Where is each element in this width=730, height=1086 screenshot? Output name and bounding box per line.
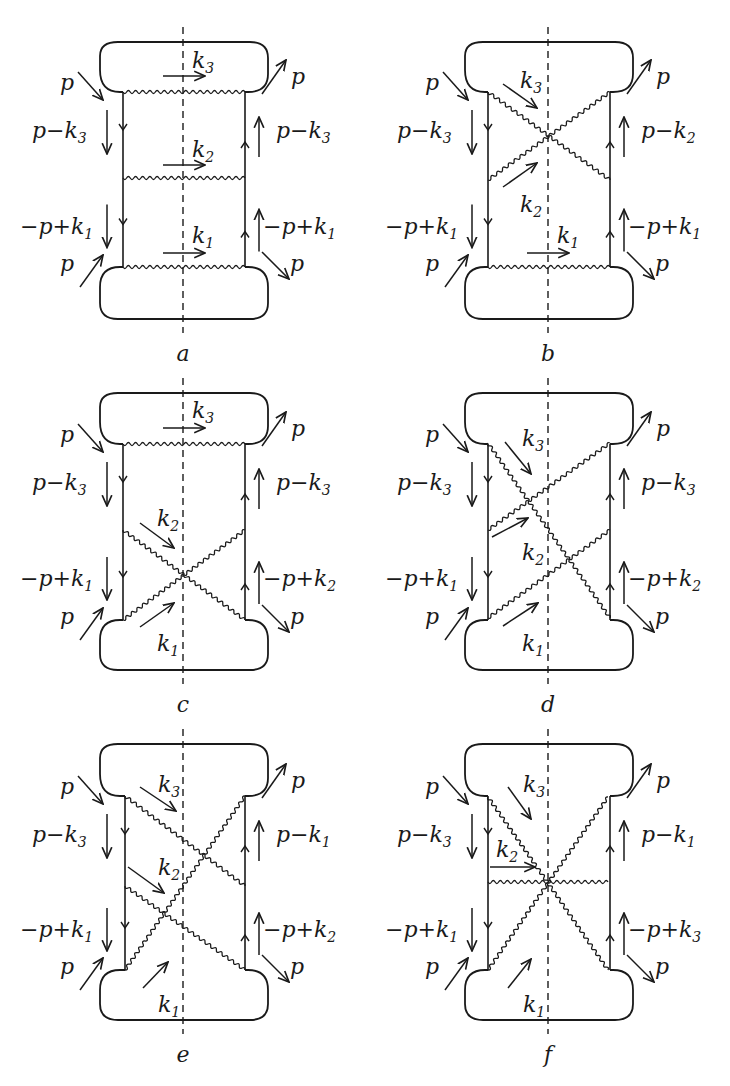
label-p-out-top: p xyxy=(291,64,305,89)
outgoing-p-arrow-icon xyxy=(627,60,651,94)
lower-blob xyxy=(465,970,633,1020)
momentum-label-k1: k1 xyxy=(523,992,545,1020)
label-right-lower-momentum: −p+k2 xyxy=(628,566,701,594)
label-p-in-bottom: p xyxy=(60,604,74,629)
outgoing-p-arrow-icon xyxy=(627,412,651,446)
label-p-in-bottom: p xyxy=(425,954,439,979)
diagram-e: k3k2k1pp−k3−p+k1ppp−k1−p+k2pe xyxy=(20,729,336,1067)
label-p-out-bottom: p xyxy=(290,604,304,629)
diagram-caption: e xyxy=(176,1042,189,1067)
momentum-label-k3: k3 xyxy=(192,398,214,426)
photon-line xyxy=(488,883,548,970)
momentum-label-k3: k3 xyxy=(522,426,544,454)
label-right-upper-momentum: p−k1 xyxy=(641,822,696,850)
label-p-in-bottom: p xyxy=(60,954,74,979)
momentum-arrow-icon xyxy=(503,603,538,626)
label-p-out-top: p xyxy=(291,416,305,441)
label-right-lower-momentum: −p+k3 xyxy=(628,917,701,945)
label-left-upper-momentum: p−k3 xyxy=(32,470,87,498)
label-right-upper-momentum: p−k3 xyxy=(276,118,331,146)
momentum-label-k1: k1 xyxy=(157,631,179,659)
outgoing-p-arrow-icon xyxy=(262,764,286,798)
momentum-label-k2: k2 xyxy=(157,506,179,534)
momentum-label-k1: k1 xyxy=(557,223,579,251)
lower-blob xyxy=(465,620,633,670)
lower-blob xyxy=(465,267,633,319)
label-left-upper-momentum: p−k3 xyxy=(32,118,87,146)
momentum-label-k2: k2 xyxy=(192,137,214,165)
label-left-lower-momentum: −p+k1 xyxy=(20,566,93,594)
photon-line xyxy=(488,443,611,618)
label-p-in-bottom: p xyxy=(425,604,439,629)
label-left-lower-momentum: −p+k1 xyxy=(385,214,458,242)
label-left-lower-momentum: −p+k1 xyxy=(385,917,458,945)
label-p-in-bottom: p xyxy=(60,251,74,276)
label-p-out-bottom: p xyxy=(290,251,304,276)
momentum-arrow-icon xyxy=(508,959,531,988)
photon-line xyxy=(125,886,245,970)
label-p-out-bottom: p xyxy=(655,251,669,276)
upper-blob xyxy=(100,42,268,92)
incoming-p-arrow-icon xyxy=(443,424,468,452)
momentum-label-k3: k3 xyxy=(520,68,542,96)
momentum-label-k3: k3 xyxy=(523,772,545,800)
momentum-label-k1: k1 xyxy=(192,223,214,251)
photon-line xyxy=(123,266,245,269)
diagram-caption: a xyxy=(176,341,189,366)
label-p-out-bottom: p xyxy=(655,604,669,629)
photon-line xyxy=(488,92,610,181)
momentum-label-k3: k3 xyxy=(192,48,214,76)
lower-blob xyxy=(100,620,268,670)
momentum-label-k1: k1 xyxy=(158,992,180,1020)
outgoing-p-arrow-icon xyxy=(627,764,651,798)
diagram-c: k3k2k1pp−k3−p+k1ppp−k3−p+k2pc xyxy=(20,378,336,717)
diagram-f: k3k2k1pp−k3−p+k1ppp−k1−p+k3pf xyxy=(385,729,701,1067)
label-p-out-bottom: p xyxy=(290,954,304,979)
label-p-out-top: p xyxy=(656,416,670,441)
photon-line xyxy=(548,883,609,970)
diagram-caption: b xyxy=(541,341,555,366)
momentum-arrow-icon xyxy=(140,603,174,627)
upper-blob xyxy=(100,744,268,796)
label-p-out-top: p xyxy=(656,64,670,89)
label-right-lower-momentum: −p+k2 xyxy=(263,566,336,594)
incoming-p-arrow-icon xyxy=(78,72,103,100)
label-right-upper-momentum: p−k2 xyxy=(641,118,696,146)
label-right-lower-momentum: −p+k1 xyxy=(263,214,336,242)
label-p-in-bottom: p xyxy=(425,251,439,276)
label-p-in-top: p xyxy=(425,774,439,799)
photon-line xyxy=(123,91,245,94)
photon-line xyxy=(123,443,245,446)
momentum-label-k2: k2 xyxy=(522,540,544,568)
incoming-p-arrow-icon xyxy=(443,776,468,804)
label-left-lower-momentum: −p+k1 xyxy=(20,214,93,242)
diagram-d: k3k2k1pp−k3−p+k1ppp−k3−p+k2pd xyxy=(385,378,701,717)
outgoing-p-arrow-icon xyxy=(262,412,286,446)
label-p-in-top: p xyxy=(425,70,439,95)
diagram-b: k3k2k1pp−k3−p+k1ppp−k2−p+k1pb xyxy=(385,27,701,366)
incoming-p-arrow-icon xyxy=(78,776,103,804)
label-left-upper-momentum: p−k3 xyxy=(32,822,87,850)
photon-line xyxy=(123,530,245,621)
momentum-label-k2: k2 xyxy=(158,855,180,883)
photon-line xyxy=(488,443,610,531)
incoming-p-arrow-icon xyxy=(443,72,468,100)
photon-line xyxy=(488,530,610,619)
label-p-in-top: p xyxy=(60,422,74,447)
label-p-out-top: p xyxy=(291,768,305,793)
label-p-out-bottom: p xyxy=(655,954,669,979)
label-p-out-top: p xyxy=(656,768,670,793)
label-left-upper-momentum: p−k3 xyxy=(397,118,452,146)
label-right-lower-momentum: −p+k1 xyxy=(628,214,701,242)
diagram-caption: f xyxy=(542,1042,556,1067)
diagram-a: k3k2k1pp−k3−p+k1ppp−k3−p+k1pa xyxy=(20,27,336,366)
photon-line xyxy=(125,796,245,970)
photon-line xyxy=(548,797,608,883)
lower-blob xyxy=(100,970,268,1020)
label-right-upper-momentum: p−k1 xyxy=(276,822,331,850)
momentum-label-k2: k2 xyxy=(496,837,518,865)
label-p-in-top: p xyxy=(425,422,439,447)
label-left-lower-momentum: −p+k1 xyxy=(385,566,458,594)
momentum-label-k2: k2 xyxy=(520,192,542,220)
diagrams-root: k3k2k1pp−k3−p+k1ppp−k3−p+k1pak3k2k1pp−k3… xyxy=(20,27,701,1067)
